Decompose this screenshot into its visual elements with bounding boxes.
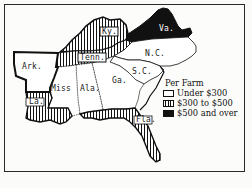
label-alabama: Ala. bbox=[80, 85, 100, 93]
swatch-hatch-icon bbox=[163, 100, 174, 107]
legend: Per Farm Under $300 $300 to $500 $500 an… bbox=[163, 79, 249, 118]
legend-label: Under $300 bbox=[177, 88, 227, 98]
label-virginia: Va. bbox=[158, 25, 175, 33]
swatch-white-icon bbox=[163, 90, 174, 97]
swatch-black-icon bbox=[163, 110, 174, 117]
legend-item-500-and-over: $500 and over bbox=[163, 108, 249, 118]
label-north-carolina: N.C. bbox=[145, 50, 165, 58]
legend-label: $500 and over bbox=[177, 108, 238, 118]
label-georgia: Ga. bbox=[112, 77, 127, 85]
label-tennessee: Tenn. bbox=[80, 54, 105, 62]
label-kentucky: Ky. bbox=[102, 28, 117, 36]
label-arkansas: Ark. bbox=[22, 63, 42, 71]
label-mississippi: Miss bbox=[51, 85, 71, 93]
legend-label: $300 to $500 bbox=[177, 98, 233, 108]
legend-item-300-to-500: $300 to $500 bbox=[163, 98, 249, 108]
label-louisiana: La. bbox=[29, 98, 44, 106]
label-south-carolina: S.C. bbox=[132, 68, 152, 76]
legend-title: Per Farm bbox=[165, 79, 249, 88]
label-florida: Fla. bbox=[136, 116, 156, 124]
legend-item-under-300: Under $300 bbox=[163, 88, 249, 98]
